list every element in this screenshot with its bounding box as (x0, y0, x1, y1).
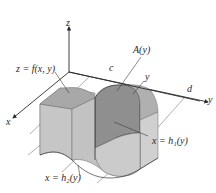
left-boundary-label: x = h₂(y) (45, 173, 81, 183)
y-axis-label: y (208, 95, 212, 105)
y-lower-bound-label: c (109, 63, 113, 73)
right-boundary-label: x = h₁(y) (152, 136, 188, 146)
double-integral-diagram: z x y z = f(x, y) A(y) c y d x = h₁(y) x… (0, 0, 216, 193)
y-variable-label: y (145, 72, 149, 82)
z-axis-label: z (66, 18, 70, 28)
surface-label: z = f(x, y) (16, 64, 55, 74)
y-upper-bound-label: d (187, 84, 192, 94)
cross-section-label: A(y) (133, 45, 150, 55)
solid-left-face (40, 104, 72, 160)
diagram-canvas (0, 0, 216, 193)
x-axis-label: x (6, 117, 10, 127)
